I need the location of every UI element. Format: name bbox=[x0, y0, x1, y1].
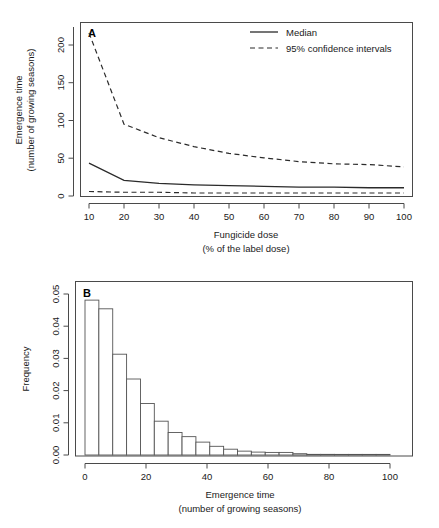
histogram-bar bbox=[127, 379, 141, 455]
histogram-bar bbox=[224, 449, 238, 455]
panel-a-x-ticklabels: 10 20 30 40 50 60 70 80 90 100 bbox=[84, 211, 412, 222]
panel-b-y-ticklabel-1: 0.01 bbox=[50, 414, 61, 433]
panel-b-x-ticklabels: 0 20 40 60 80 100 bbox=[82, 471, 398, 482]
panel-a-legend: Median 95% confidence intervals bbox=[250, 27, 392, 54]
panel-b-x-axis-title: Emergence time bbox=[205, 489, 274, 500]
curve-ci-lower bbox=[89, 192, 404, 194]
panel-b-x-ticklabel-1: 20 bbox=[141, 471, 152, 482]
panel-a-x-ticklabel-9: 100 bbox=[396, 211, 412, 222]
panel-a-y-ticklabel-0: 0 bbox=[55, 193, 66, 198]
panel-b-letter: B bbox=[83, 287, 91, 299]
panel-a-x-ticklabel-1: 20 bbox=[119, 211, 130, 222]
panel-a-y-axis-subtitle: (number of growing seasons) bbox=[25, 48, 36, 171]
panel-b-svg: B 0.00 0.01 0.02 0.03 0.04 0.05 Frequenc… bbox=[0, 264, 439, 528]
panel-a-x-ticklabel-5: 60 bbox=[259, 211, 270, 222]
curve-median bbox=[89, 163, 404, 188]
histogram-bar bbox=[238, 451, 252, 455]
panel-b-y-axis-title: Frequency bbox=[20, 346, 31, 391]
panel-b-x-ticklabel-5: 100 bbox=[382, 471, 398, 482]
panel-a-x-axis-title: Fungicide dose bbox=[214, 229, 278, 240]
histogram-bar bbox=[182, 437, 196, 455]
panel-b-histogram: B 0.00 0.01 0.02 0.03 0.04 0.05 Frequenc… bbox=[0, 264, 439, 528]
histogram-bar bbox=[251, 452, 265, 455]
legend-ci-label: 95% confidence intervals bbox=[286, 43, 392, 54]
histogram-bar bbox=[293, 454, 307, 455]
panel-a-y-ticklabel-1: 50 bbox=[55, 153, 66, 164]
panel-b-x-ticklabel-4: 80 bbox=[324, 471, 335, 482]
panel-b-y-ticklabel-4: 0.04 bbox=[50, 317, 61, 336]
panel-b-y-ticklabel-5: 0.05 bbox=[50, 285, 61, 304]
panel-b-y-ticklabel-0: 0.00 bbox=[50, 446, 61, 465]
histogram-bar bbox=[168, 432, 182, 455]
panel-b-x-ticks bbox=[85, 464, 390, 469]
panel-a-x-ticklabel-7: 80 bbox=[329, 211, 340, 222]
legend-median-label: Median bbox=[286, 27, 317, 38]
histogram-bar bbox=[279, 452, 293, 455]
panel-b-x-ticklabel-2: 40 bbox=[202, 471, 213, 482]
panel-b-bars-group bbox=[85, 300, 390, 455]
panel-a-x-ticklabel-6: 70 bbox=[294, 211, 305, 222]
panel-b-y-ticks bbox=[64, 294, 69, 455]
panel-a-x-axis-subtitle: (% of the label dose) bbox=[202, 243, 289, 254]
histogram-bar bbox=[348, 454, 362, 455]
histogram-bar bbox=[335, 454, 349, 455]
panel-a-x-ticklabel-2: 30 bbox=[154, 211, 165, 222]
histogram-bar bbox=[307, 454, 321, 455]
histogram-bar bbox=[85, 300, 99, 455]
histogram-bar bbox=[210, 446, 224, 455]
panel-a-x-ticklabel-3: 40 bbox=[189, 211, 200, 222]
histogram-bar bbox=[376, 454, 390, 455]
histogram-bar bbox=[99, 309, 113, 455]
histogram-bar bbox=[196, 442, 210, 455]
panel-b-y-ticklabels: 0.00 0.01 0.02 0.03 0.04 0.05 bbox=[50, 285, 61, 465]
panel-b-x-ticklabel-0: 0 bbox=[82, 471, 87, 482]
panel-a-y-ticklabel-2: 100 bbox=[55, 113, 66, 129]
panel-b-y-ticklabel-3: 0.03 bbox=[50, 349, 61, 368]
histogram-bar bbox=[321, 454, 335, 455]
panel-b-y-ticklabel-2: 0.02 bbox=[50, 381, 61, 400]
panel-a-line-chart: A 0 50 100 150 200 Emergence time (numbe… bbox=[0, 0, 439, 264]
histogram-bar bbox=[154, 421, 168, 455]
panel-a-x-ticklabel-0: 10 bbox=[84, 211, 95, 222]
histogram-bar bbox=[140, 403, 154, 455]
panel-a-y-ticklabels: 0 50 100 150 200 bbox=[55, 37, 66, 199]
panel-a-x-ticklabel-8: 90 bbox=[364, 211, 375, 222]
panel-a-y-ticklabel-3: 150 bbox=[55, 75, 66, 91]
panel-b-x-ticklabel-3: 60 bbox=[263, 471, 274, 482]
histogram-bar bbox=[265, 452, 279, 455]
panel-a-series-group bbox=[89, 33, 404, 193]
histogram-bar bbox=[362, 454, 376, 455]
panel-a-y-ticks bbox=[69, 45, 74, 196]
panel-a-svg: A 0 50 100 150 200 Emergence time (numbe… bbox=[0, 0, 439, 264]
panel-a-y-ticklabel-4: 200 bbox=[55, 37, 66, 53]
figure-container: A 0 50 100 150 200 Emergence time (numbe… bbox=[0, 0, 439, 528]
panel-a-x-ticklabel-4: 50 bbox=[224, 211, 235, 222]
panel-a-y-axis-title: Emergence time bbox=[13, 75, 24, 144]
histogram-bar bbox=[113, 354, 127, 455]
panel-b-x-axis-subtitle: (number of growing seasons) bbox=[178, 503, 301, 514]
panel-a-x-ticks bbox=[89, 204, 404, 209]
